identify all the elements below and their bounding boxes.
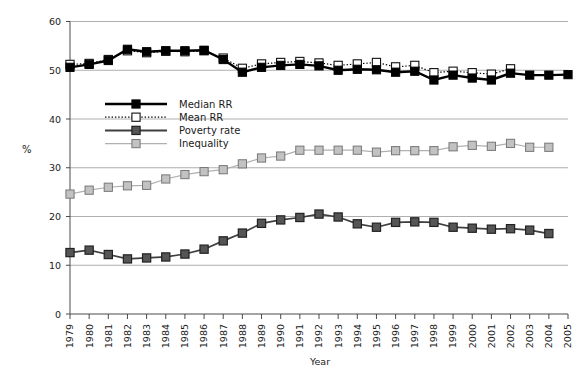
y-tick-label: 60	[49, 16, 61, 27]
x-tick-label: 2002	[505, 324, 516, 348]
data-point-marker	[334, 66, 342, 74]
x-tick-label: 1984	[160, 324, 171, 348]
data-point-marker	[200, 245, 208, 253]
data-point-marker	[219, 55, 227, 63]
data-point-marker	[392, 147, 400, 155]
x-tick-label: 1989	[256, 324, 267, 348]
data-point-marker	[257, 63, 265, 71]
data-point-marker	[487, 225, 495, 233]
data-point-marker	[430, 218, 438, 226]
data-point-marker	[372, 223, 380, 231]
data-point-marker	[449, 143, 457, 151]
x-tick-label: 1997	[409, 324, 420, 348]
x-tick-label: 1987	[218, 324, 229, 348]
x-tick-label: 1991	[294, 324, 305, 348]
data-point-marker	[104, 250, 112, 258]
data-point-marker	[296, 146, 304, 154]
data-point-marker	[468, 224, 476, 232]
data-point-marker	[315, 210, 323, 218]
data-point-marker	[85, 246, 93, 254]
y-tick-label: 20	[49, 211, 61, 222]
y-tick-label: 0	[55, 309, 61, 320]
legend-group: Median RRMean RRPoverty rateInequality	[105, 99, 240, 150]
data-point-marker	[219, 237, 227, 245]
x-tick-marks-group	[70, 314, 568, 319]
data-point-marker	[506, 69, 514, 77]
legend-label: Poverty rate	[179, 125, 240, 136]
x-tick-label: 1990	[275, 324, 286, 348]
data-point-marker	[296, 60, 304, 68]
data-point-marker	[257, 219, 265, 227]
data-point-marker	[66, 63, 74, 71]
data-point-marker	[564, 71, 572, 79]
data-point-marker	[449, 71, 457, 79]
data-point-marker	[526, 226, 534, 234]
x-tick-label: 1998	[428, 324, 439, 348]
data-point-marker	[277, 152, 285, 160]
data-point-marker	[296, 213, 304, 221]
data-point-marker	[392, 218, 400, 226]
legend-marker-swatch	[132, 113, 140, 121]
data-point-marker	[162, 47, 170, 55]
data-point-marker	[545, 143, 553, 151]
x-tick-label: 2000	[467, 324, 478, 348]
data-point-marker	[392, 68, 400, 76]
data-point-marker	[162, 253, 170, 261]
x-tick-label: 1995	[371, 324, 382, 348]
legend-label: Median RR	[179, 99, 232, 110]
data-point-marker	[411, 218, 419, 226]
x-tick-label: 1982	[122, 324, 133, 348]
legend-marker-swatch	[132, 126, 140, 134]
data-series-group	[66, 45, 572, 263]
data-point-marker	[85, 60, 93, 68]
data-point-marker	[334, 213, 342, 221]
series-line	[70, 214, 549, 259]
x-tick-label: 1994	[352, 324, 363, 348]
x-tick-label: 1981	[103, 324, 114, 348]
series-poverty-rate	[66, 210, 553, 263]
data-point-marker	[334, 146, 342, 154]
x-tick-label: 2005	[562, 324, 573, 348]
data-point-marker	[430, 76, 438, 84]
data-point-marker	[123, 45, 131, 53]
legend-item-inequality: Inequality	[105, 138, 229, 149]
legend-item-poverty-rate: Poverty rate	[105, 125, 240, 136]
x-tick-label: 1993	[333, 324, 344, 348]
legend-marker-swatch	[132, 100, 140, 108]
chart-canvas: 0102030405060 19791980198119821983198419…	[0, 0, 580, 371]
x-axis-label: Year	[309, 356, 330, 367]
data-point-marker	[181, 170, 189, 178]
data-point-marker	[85, 186, 93, 194]
data-point-marker	[372, 148, 380, 156]
x-tick-label: 1983	[141, 324, 152, 348]
data-point-marker	[487, 76, 495, 84]
data-point-marker	[506, 225, 514, 233]
x-tick-label: 1996	[390, 324, 401, 348]
series-line	[70, 143, 549, 194]
legend-item-mean-rr: Mean RR	[105, 112, 223, 123]
series-mean-rr	[66, 47, 515, 79]
y-tick-label: 50	[49, 65, 61, 76]
x-tick-label: 1985	[179, 324, 190, 348]
data-point-marker	[506, 139, 514, 147]
data-point-marker	[487, 142, 495, 150]
series-median-rr	[66, 45, 572, 84]
data-point-marker	[162, 175, 170, 183]
y-tick-label: 10	[49, 260, 61, 271]
data-point-marker	[181, 47, 189, 55]
x-tick-label: 2004	[543, 324, 554, 348]
data-point-marker	[257, 154, 265, 162]
data-point-marker	[545, 229, 553, 237]
data-point-marker	[123, 255, 131, 263]
data-point-marker	[353, 146, 361, 154]
data-point-marker	[238, 160, 246, 168]
data-point-marker	[66, 190, 74, 198]
data-point-marker	[315, 62, 323, 70]
data-point-marker	[277, 61, 285, 69]
data-point-marker	[66, 248, 74, 256]
data-point-marker	[143, 48, 151, 56]
data-point-marker	[238, 229, 246, 237]
y-axis-label: %	[22, 144, 32, 155]
x-tick-label: 1986	[198, 324, 209, 348]
data-point-marker	[104, 183, 112, 191]
